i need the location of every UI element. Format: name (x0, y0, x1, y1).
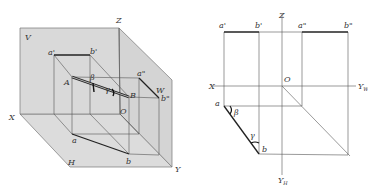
label-b: b (262, 145, 267, 154)
label-yw: YW (358, 82, 368, 92)
label-beta: β (233, 108, 239, 117)
label-h-plane: H (67, 158, 76, 167)
label-b-dprime: b" (344, 21, 353, 30)
label-x: X (8, 113, 15, 122)
label-b-prime: b' (90, 47, 97, 56)
top-projection-a-b (224, 106, 259, 154)
label-a-dprime: a" (298, 21, 306, 30)
label-o: O (120, 107, 127, 116)
axes-and-projectors (212, 14, 356, 175)
label-a-dprime: a" (137, 69, 145, 78)
label-gamma: γ (250, 131, 255, 140)
label-a: a (72, 136, 77, 145)
label-a-prime: a' (48, 48, 55, 57)
left-3d-diagram: Z V W X H Y O a' b' A B a" b" a b β γ (8, 16, 181, 174)
label-yh: YH (278, 176, 288, 186)
figure-canvas: Z V W X H Y O a' b' A B a" b" a b β γ (0, 0, 368, 186)
angle-beta-arc (230, 106, 232, 114)
right-ortho-diagram: Z a' b' a" b" X O YW YH a b β γ (208, 11, 368, 186)
label-b-dprime: b" (161, 94, 170, 103)
label-o: O (284, 75, 291, 84)
angle-beta-mark (93, 83, 94, 92)
label-z: Z (115, 16, 122, 25)
label-b: b (126, 157, 131, 166)
label-gamma: γ (105, 85, 110, 94)
label-z: Z (278, 11, 285, 20)
label-a-prime: a' (219, 21, 226, 30)
label-y: Y (175, 165, 181, 174)
angle-gamma-arc (251, 142, 259, 143)
projection-lines-bold (224, 32, 348, 154)
label-a: a (215, 99, 220, 108)
label-A: A (63, 78, 70, 87)
label-b-prime: b' (255, 21, 262, 30)
label-beta: β (89, 73, 95, 82)
label-x: X (208, 82, 215, 91)
label-B: B (129, 91, 136, 100)
